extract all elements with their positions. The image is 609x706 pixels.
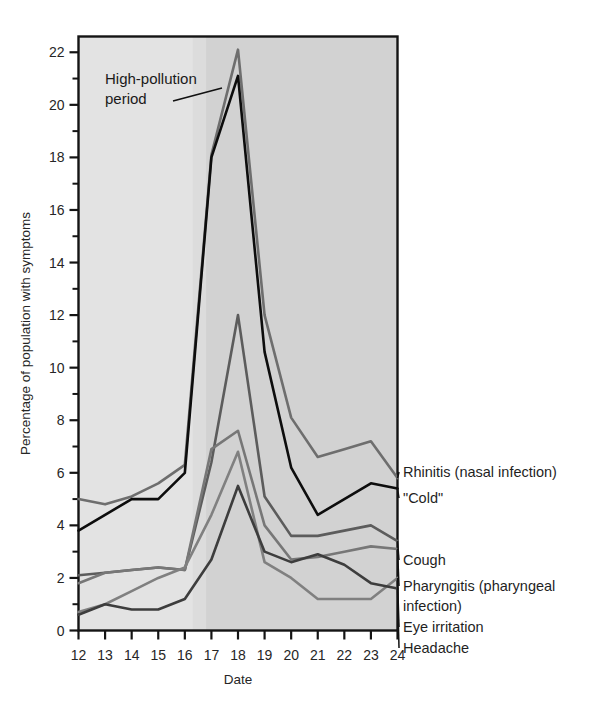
legend-label: infection) (403, 598, 462, 614)
legend-label: Rhinitis (nasal infection) (403, 464, 557, 480)
annotation-line-1: High-pollution (105, 70, 197, 87)
x-axis-tick-label: 20 (283, 647, 299, 663)
y-axis-tick-label: 2 (57, 570, 65, 586)
y-axis-tick-label: 4 (57, 517, 65, 533)
x-axis-tick-label: 17 (204, 647, 220, 663)
x-axis-tick-label: 15 (150, 647, 166, 663)
x-axis-tick-label: 22 (337, 647, 353, 663)
legend-label: Headache (403, 640, 469, 656)
y-axis-tick-label: 20 (49, 97, 65, 113)
x-axis-title: Date (224, 672, 253, 687)
x-axis-tick-label: 14 (124, 647, 140, 663)
y-axis-tick-label: 22 (49, 44, 65, 60)
legend-label: Eye irritation (403, 619, 484, 635)
y-axis-tick-label: 8 (57, 412, 65, 428)
annotation-line-2: period (105, 90, 147, 107)
symptoms-line-chart: 0246810121416182022121314151617181920212… (0, 0, 609, 706)
x-axis-tick-label: 13 (97, 647, 113, 663)
y-axis-tick-label: 6 (57, 465, 65, 481)
legend-label: "Cold" (403, 490, 443, 506)
x-axis-tick-label: 23 (363, 647, 379, 663)
x-axis-tick-label: 16 (177, 647, 193, 663)
x-axis-tick-label: 19 (257, 647, 273, 663)
y-axis-tick-label: 12 (49, 307, 65, 323)
y-axis-title: Percentage of population with symptoms (18, 212, 33, 455)
y-axis-tick-label: 10 (49, 360, 65, 376)
y-axis-tick-label: 0 (57, 623, 65, 639)
x-axis-tick-label: 12 (71, 647, 87, 663)
y-axis-tick-label: 14 (49, 255, 65, 271)
chart-figure: 0246810121416182022121314151617181920212… (0, 0, 609, 706)
legend-label: Cough (403, 552, 446, 568)
y-axis-tick-label: 18 (49, 149, 65, 165)
y-axis-tick-label: 16 (49, 202, 65, 218)
legend-label: Pharyngitis (pharyngeal (403, 578, 555, 594)
x-axis-tick-label: 21 (310, 647, 326, 663)
x-axis-tick-label: 18 (230, 647, 246, 663)
